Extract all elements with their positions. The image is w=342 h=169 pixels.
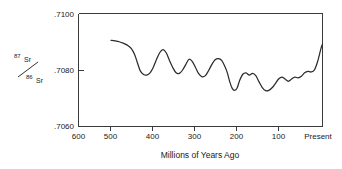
chart-page: .7100 .7080 .7060 600 500 400 300 200 10…: [0, 0, 342, 169]
x-tick-label-100: 100: [272, 132, 286, 141]
x-tick-label-400: 400: [146, 132, 160, 141]
y-tick-label-7080: .7080: [54, 66, 75, 75]
y-axis-title-denominator-superscript: 86: [26, 74, 33, 80]
x-tick-label-200: 200: [230, 132, 244, 141]
x-tick-label-600: 600: [72, 132, 86, 141]
plot-frame: [79, 14, 323, 127]
y-tick-label-7100: .7100: [54, 10, 75, 19]
y-axis-title-denominator-element: Sr: [36, 77, 44, 84]
x-axis-title: Millions of Years Ago: [161, 150, 240, 160]
y-axis-title-numerator-superscript: 87: [14, 53, 21, 59]
x-tick-label-present: Present: [304, 132, 332, 141]
y-axis-title: 87 Sr 86 Sr: [14, 53, 44, 84]
data-line-series: [111, 40, 322, 91]
x-tick-label-500: 500: [104, 132, 118, 141]
x-tick-label-300: 300: [188, 132, 202, 141]
y-axis-title-numerator-element: Sr: [24, 56, 32, 63]
y-tick-label-7060: .7060: [54, 122, 75, 131]
strontium-isotope-line-chart: .7100 .7080 .7060 600 500 400 300 200 10…: [0, 0, 342, 169]
